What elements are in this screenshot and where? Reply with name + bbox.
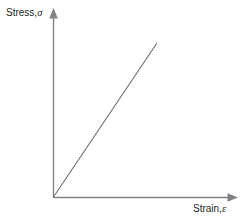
- x-axis-label: Strain,ε: [193, 204, 226, 215]
- y-axis-label: Stress,σ: [6, 8, 42, 19]
- x-axis-arrowhead: [228, 193, 239, 202]
- stress-strain-chart: Stress,σ Strain,ε: [0, 0, 245, 218]
- y-axis-label-text: Stress,: [6, 7, 37, 18]
- linear-elastic-line: [54, 43, 158, 197]
- chart-plot-area: [0, 0, 245, 218]
- epsilon-symbol: ε: [222, 203, 226, 214]
- sigma-symbol: σ: [37, 7, 42, 18]
- y-axis-arrowhead: [49, 8, 58, 19]
- x-axis-label-text: Strain,: [193, 203, 222, 214]
